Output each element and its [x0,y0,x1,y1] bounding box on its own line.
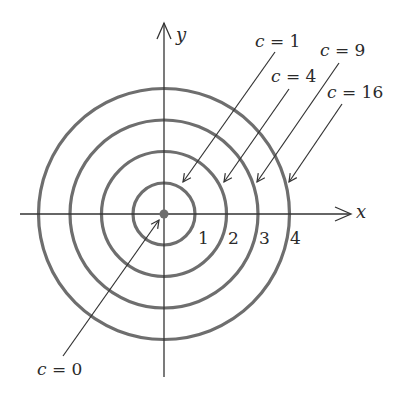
diagram-canvas [0,0,393,406]
level-eq: = [270,31,284,51]
level-eq: = [52,359,66,379]
level-label-c9: c = 9 [320,42,365,59]
arrow-c0 [63,220,159,356]
tick-label-2: 2 [228,230,239,247]
level-var: c [320,40,330,60]
level-curves-diagram: y x 1 2 3 4 c = 1 c = 9 c = 4 c = 16 c =… [0,0,393,406]
tick-label-3: 3 [259,230,270,247]
tick-label-4: 4 [290,230,301,247]
level-var: c [271,66,281,86]
level-value: 16 [362,82,384,102]
origin-point [160,210,169,219]
level-eq: = [286,66,300,86]
level-eq: = [335,40,349,60]
level-var: c [255,31,265,51]
level-var: c [327,82,337,102]
x-axis-label: x [356,203,366,221]
level-value: 0 [72,359,83,379]
tick-label-1: 1 [198,230,209,247]
arrow-c1 [183,52,275,182]
level-value: 1 [290,31,301,51]
level-label-c0: c = 0 [37,361,82,378]
level-label-c1: c = 1 [255,33,300,50]
level-label-c4: c = 4 [271,68,316,85]
level-var: c [37,359,47,379]
arrow-c16 [289,104,342,182]
y-axis-label: y [176,26,186,44]
level-eq: = [342,82,356,102]
level-value: 4 [306,66,317,86]
level-label-c16: c = 16 [327,84,383,101]
level-value: 9 [355,40,366,60]
pointer-arrows [63,52,342,356]
